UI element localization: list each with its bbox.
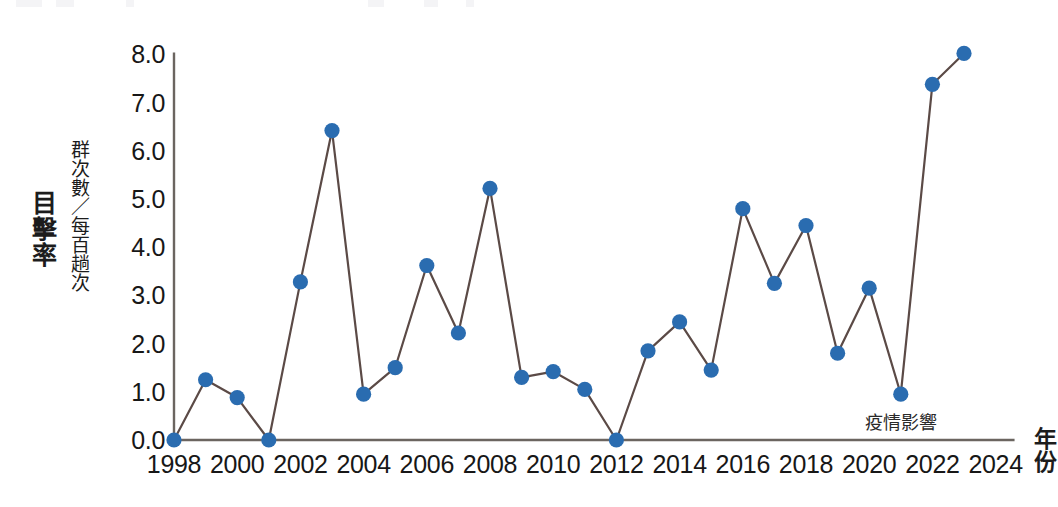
data-point-marker[interactable] (419, 258, 434, 273)
data-point-marker[interactable] (514, 370, 529, 385)
data-point-marker[interactable] (704, 363, 719, 378)
data-point-marker[interactable] (230, 390, 245, 405)
data-point-marker[interactable] (640, 343, 655, 358)
data-point-markers (166, 46, 971, 448)
data-point-marker[interactable] (956, 46, 971, 61)
data-point-marker[interactable] (735, 201, 750, 216)
data-series-line (174, 53, 964, 440)
axes-group (174, 52, 1015, 440)
data-point-marker[interactable] (324, 123, 339, 138)
data-point-marker[interactable] (482, 181, 497, 196)
data-point-marker[interactable] (672, 314, 687, 329)
data-point-marker[interactable] (830, 346, 845, 361)
chart-annotation: 疫情影響 (865, 408, 937, 434)
chart-container: 目擊率 群次數／每百趟次 年份 0.01.02.03.04.05.06.07.0… (0, 0, 1058, 507)
data-point-marker[interactable] (261, 432, 276, 447)
data-point-marker[interactable] (609, 432, 624, 447)
data-point-marker[interactable] (293, 274, 308, 289)
data-point-marker[interactable] (862, 281, 877, 296)
data-point-marker[interactable] (798, 218, 813, 233)
data-point-marker[interactable] (166, 432, 181, 447)
data-point-marker[interactable] (356, 387, 371, 402)
data-point-marker[interactable] (577, 382, 592, 397)
data-point-marker[interactable] (198, 372, 213, 387)
data-point-marker[interactable] (451, 325, 466, 340)
data-point-marker[interactable] (893, 387, 908, 402)
data-point-marker[interactable] (925, 77, 940, 92)
series-line (174, 53, 964, 440)
data-point-marker[interactable] (388, 360, 403, 375)
data-point-marker[interactable] (546, 364, 561, 379)
data-point-marker[interactable] (767, 276, 782, 291)
